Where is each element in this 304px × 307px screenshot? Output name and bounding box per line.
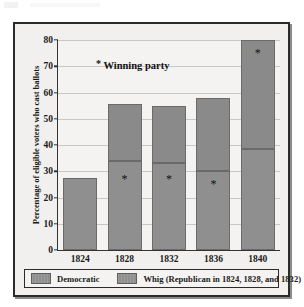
y-axis-tick-mark xyxy=(54,66,58,67)
legend-item-whig: Whig (Republican in 1824, 1828, and 1832… xyxy=(117,273,301,284)
x-axis-tick-label-1832: 1832 xyxy=(147,254,191,264)
x-axis-tick-label-1828: 1828 xyxy=(103,254,147,264)
y-axis-tick-mark xyxy=(54,171,58,172)
y-axis-tick-mark xyxy=(54,197,58,198)
y-axis-tick-mark xyxy=(54,249,58,250)
y-axis-tick-label: 30 xyxy=(44,166,54,176)
legend-item-democratic: Democratic xyxy=(31,273,99,284)
legend-swatch-whig xyxy=(117,273,137,284)
y-axis-tick-mark xyxy=(54,39,58,40)
chart-legend: Democratic Whig (Republican in 1824, 182… xyxy=(24,269,279,288)
asterisk-icon: * xyxy=(96,58,101,69)
y-axis-tick-label: 60 xyxy=(44,88,54,98)
y-axis-tick-mark xyxy=(54,144,58,145)
chart-figure-frame: Percentage of eligible voters who cast b… xyxy=(13,22,290,297)
legend-label-democratic: Democratic xyxy=(57,274,99,284)
y-axis-tick-mark xyxy=(54,118,58,119)
bar-segment-whig[interactable] xyxy=(152,106,186,163)
x-axis-tick-label-1840: 1840 xyxy=(236,254,280,264)
scan-smudge xyxy=(4,2,18,8)
y-axis-title: Percentage of eligible voters who cast b… xyxy=(29,40,43,250)
bar-segment-democratic[interactable] xyxy=(63,178,97,250)
y-axis-tick-label: 0 xyxy=(48,245,53,255)
y-axis-tick-mark xyxy=(54,92,58,93)
winning-party-annotation: * Winning party xyxy=(96,58,169,71)
y-axis-tick-label: 10 xyxy=(44,219,54,229)
y-axis-tick-mark xyxy=(54,223,58,224)
winning-party-label: Winning party xyxy=(103,60,169,71)
scan-smudge-secondary xyxy=(30,3,100,7)
y-axis-tick-label: 20 xyxy=(44,193,54,203)
bar-segment-democratic[interactable] xyxy=(241,149,275,250)
y-axis-tick-label: 50 xyxy=(44,114,54,124)
bar-segment-whig[interactable] xyxy=(108,104,142,161)
bar-segment-whig[interactable] xyxy=(196,98,230,171)
y-axis-tick-label: 40 xyxy=(44,140,54,150)
legend-label-whig: Whig (Republican in 1824, 1828, and 1832… xyxy=(143,274,301,284)
x-axis-tick-label-1824: 1824 xyxy=(58,254,102,264)
page-scan-artifact xyxy=(0,0,304,16)
plot-wrapper: 01020304050607080 * Winning party **** 1… xyxy=(57,40,279,275)
y-axis-tick-label: 80 xyxy=(44,35,54,45)
y-axis-title-text: Percentage of eligible voters who cast b… xyxy=(31,66,41,225)
y-axis-tick-label: 70 xyxy=(44,61,54,71)
x-axis-tick-label-1836: 1836 xyxy=(191,254,235,264)
plot-area: 01020304050607080 * Winning party **** 1… xyxy=(57,40,280,251)
legend-swatch-democratic xyxy=(31,273,51,284)
